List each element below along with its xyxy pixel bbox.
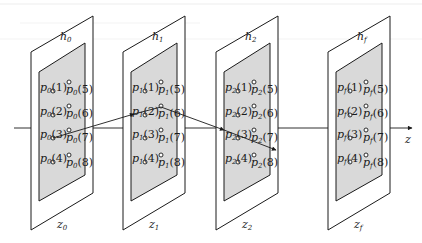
multi-plane-propagation-diagram: h0z0p0(5)p0(6)p0(7)p0(8)p0(1)p0(2)p0(3)p… xyxy=(0,0,422,243)
point-label-5: pf(5) xyxy=(363,83,388,97)
point-label-3: p1(3) xyxy=(132,128,159,142)
plane-1: h1z1p1(5)p1(6)p1(7)p1(8)p1(1)p1(2)p1(3)p… xyxy=(123,16,185,232)
point-label-4: p0(4) xyxy=(40,152,67,166)
point-label-7: p2(7) xyxy=(251,131,278,145)
plane-z-label: z2 xyxy=(241,218,253,232)
point-label-8: p1(8) xyxy=(158,156,185,170)
plane-f: hfzfpf(5)pf(6)pf(7)pf(8)pf(1)pf(2)pf(3)p… xyxy=(328,16,390,232)
point-label-1: pf(1) xyxy=(337,81,362,95)
point-label-6: p0(6) xyxy=(66,107,93,121)
point-label-3: p2(3) xyxy=(225,128,252,142)
point-label-5: p1(5) xyxy=(158,83,185,97)
point-label-2: pf(2) xyxy=(337,105,362,119)
point-label-4: p2(4) xyxy=(225,152,252,166)
point-label-5: p2(5) xyxy=(251,83,278,97)
point-label-6: pf(6) xyxy=(363,107,388,121)
point-label-8: pf(8) xyxy=(363,156,388,170)
z-axis-label: z xyxy=(404,133,411,146)
point-label-1: p0(1) xyxy=(40,81,67,95)
point-label-8: p2(8) xyxy=(251,156,278,170)
point-label-2: p1(2) xyxy=(132,105,159,119)
point-label-3: pf(3) xyxy=(337,128,362,142)
point-label-2: p0(2) xyxy=(40,105,67,119)
point-label-4: pf(4) xyxy=(337,152,362,166)
point-label-7: p1(7) xyxy=(158,131,185,145)
point-label-5: p0(5) xyxy=(66,83,93,97)
plane-z-label: z0 xyxy=(56,218,68,232)
plane-z-label: zf xyxy=(353,218,364,232)
point-label-2: p2(2) xyxy=(225,105,252,119)
point-label-1: p2(1) xyxy=(225,81,252,95)
plane-0: h0z0p0(5)p0(6)p0(7)p0(8)p0(1)p0(2)p0(3)p… xyxy=(31,16,93,232)
point-label-7: pf(7) xyxy=(363,131,388,145)
point-label-6: p2(6) xyxy=(251,107,278,121)
point-label-8: p0(8) xyxy=(66,156,93,170)
plane-z-label: z1 xyxy=(148,218,159,232)
point-label-1: p1(1) xyxy=(132,81,159,95)
plane-2: h2z2p2(5)p2(6)p2(7)p2(8)p2(1)p2(2)p2(3)p… xyxy=(216,16,278,232)
point-label-4: p1(4) xyxy=(132,152,159,166)
